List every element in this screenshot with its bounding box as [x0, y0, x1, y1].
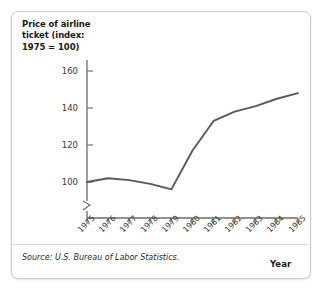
y-tick-label-140: 140: [52, 103, 78, 113]
x-axis-title: Year: [270, 259, 291, 269]
y-axis-break-icon: [83, 201, 90, 210]
y-axis-ticks: [87, 71, 93, 182]
data-series-line: [87, 93, 298, 189]
y-tick-label-100: 100: [52, 177, 78, 187]
chart-figure-card: Price of airline ticket (index: 1975 = 1…: [11, 11, 311, 279]
source-note: Source: U.S. Bureau of Labor Statistics.: [22, 253, 179, 262]
source-divider: [13, 244, 309, 245]
y-tick-label-120: 120: [52, 140, 78, 150]
y-tick-label-160: 160: [52, 66, 78, 76]
